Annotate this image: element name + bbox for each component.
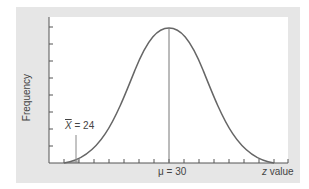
- x-axis-label: z value: [262, 166, 294, 177]
- mean-label: μ = 30: [158, 166, 186, 177]
- xbar-symbol: X: [65, 120, 72, 131]
- y-axis-label: Frequency: [21, 68, 32, 128]
- sample-mean-label: X = 24: [65, 120, 94, 131]
- xbar-value: = 24: [72, 120, 95, 131]
- z-rest: value: [267, 166, 294, 177]
- bell-curve-chart: [0, 0, 309, 189]
